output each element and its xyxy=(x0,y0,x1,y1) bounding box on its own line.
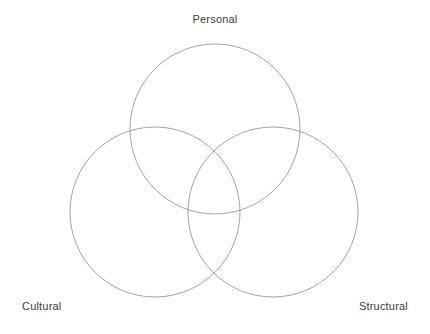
circle-label-structural: Structural xyxy=(359,300,408,313)
circle-label-cultural: Cultural xyxy=(22,300,62,313)
circle-personal xyxy=(130,44,300,214)
circle-structural xyxy=(188,127,358,297)
venn-diagram-canvas xyxy=(0,0,430,334)
circle-label-personal: Personal xyxy=(0,13,430,26)
circle-cultural xyxy=(70,127,240,297)
venn-diagram: Personal Cultural Structural xyxy=(0,0,430,334)
